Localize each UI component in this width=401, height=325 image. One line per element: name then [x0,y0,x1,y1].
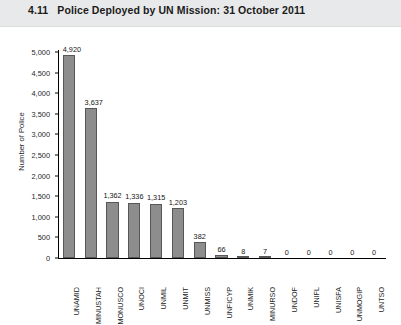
bar[interactable] [150,204,162,258]
bar-group[interactable]: 0 [281,52,293,258]
bar-group[interactable]: 0 [368,52,380,258]
bar-value-label: 382 [194,232,206,241]
bar[interactable] [259,256,271,258]
x-tick-label: MINUSTAH [94,287,103,324]
bar[interactable] [106,202,118,258]
y-tick-label: 2,000 [6,171,50,180]
bar-group[interactable]: 0 [303,52,315,258]
x-tick-label: MINURSO [268,287,277,321]
y-tick-label: 0 [6,254,50,263]
x-tick-label: UNFICYP [225,287,234,319]
bar-group[interactable]: 1,362 [106,52,118,258]
x-tick-label: UNTSO [377,287,386,312]
bar-value-label: 66 [217,245,225,254]
bar-value-label: 1,315 [147,193,165,202]
y-tick-label: 4,500 [6,68,50,77]
bar-value-label: 7 [263,247,267,256]
x-tick-label: UNDOF [290,287,299,313]
bar-group[interactable]: 66 [215,52,227,258]
bar-value-label: 3,637 [85,98,103,107]
x-tick-label: UNIFL [312,287,321,308]
title-band: 4.11 Police Deployed by UN Mission: 31 O… [0,0,401,27]
bar[interactable] [194,242,206,258]
x-tick-label: UNMIT [181,287,190,310]
bar-value-label: 0 [285,248,289,257]
x-tick-label: MONUSCO [116,287,125,325]
x-tick-label: UNMOGIP [355,287,364,321]
bar-group[interactable]: 0 [324,52,336,258]
bar[interactable] [215,255,227,258]
bar-value-label: 4,920 [63,45,81,54]
plot-area: 4,920UNAMID3,637MINUSTAH1,362MONUSCO1,33… [58,52,385,258]
bar[interactable] [237,256,249,258]
bar-value-label: 0 [307,248,311,257]
bar-value-label: 0 [328,248,332,257]
bar-group[interactable]: 1,336 [128,52,140,258]
x-tick-label: UNOCI [137,287,146,310]
x-tick-label: UNMIK [246,287,255,310]
bar[interactable] [172,208,184,258]
bar-value-label: 1,336 [125,192,143,201]
y-tick-label: 500 [6,233,50,242]
bar-group[interactable]: 3,637 [85,52,97,258]
y-tick-label: 1,000 [6,212,50,221]
y-tick-label: 3,000 [6,130,50,139]
y-tick-label: 3,500 [6,109,50,118]
y-tick-label: 5,000 [6,48,50,57]
y-tick-label: 1,500 [6,192,50,201]
bar-group[interactable]: 0 [346,52,358,258]
bar-group[interactable]: 4,920 [63,52,75,258]
bar-group[interactable]: 8 [237,52,249,258]
x-axis-line [58,258,386,259]
bar-value-label: 1,203 [169,198,187,207]
bar-chart: Number of Police 5,0004,5004,0003,5003,0… [0,27,401,317]
bar-value-label: 1,362 [103,191,121,200]
x-tick-label: UNMIL [159,287,168,309]
y-axis-ticks: 5,0004,5004,0003,5003,0002,5002,0001,500… [0,27,58,317]
x-tick-label: UNISFA [334,287,343,313]
y-tick-label: 2,500 [6,151,50,160]
bar[interactable] [63,55,75,258]
bar-value-label: 8 [241,247,245,256]
bar-group[interactable]: 1,315 [150,52,162,258]
bar-group[interactable]: 7 [259,52,271,258]
bar-value-label: 0 [372,248,376,257]
bar[interactable] [85,108,97,258]
x-tick-label: UNAMID [72,287,81,315]
bar[interactable] [128,203,140,258]
page-title: 4.11 Police Deployed by UN Mission: 31 O… [28,4,305,16]
bar-value-label: 0 [350,248,354,257]
x-tick-label: UNMISS [203,287,212,315]
y-tick-label: 4,000 [6,89,50,98]
bar-group[interactable]: 382 [194,52,206,258]
bar-group[interactable]: 1,203 [172,52,184,258]
